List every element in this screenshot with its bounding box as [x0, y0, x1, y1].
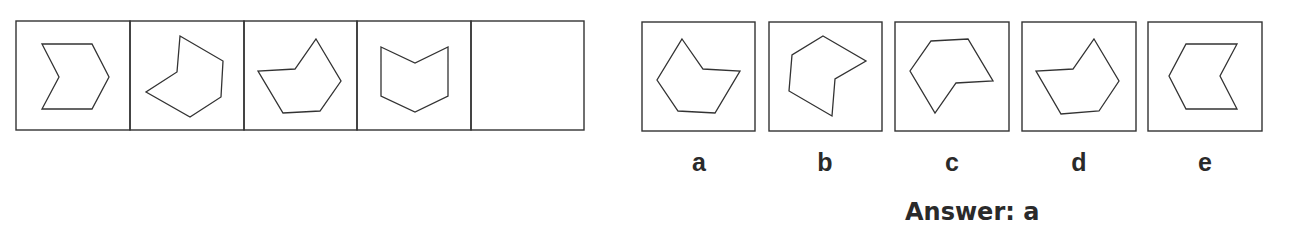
sequence-cell-1-frame: [16, 21, 130, 130]
puzzle-figure: [0, 0, 1296, 239]
option-label-e: e: [1185, 150, 1225, 175]
option-label-a: a: [679, 150, 719, 175]
sequence-cell-2-frame: [130, 21, 244, 130]
option-e-frame: [1148, 22, 1262, 131]
option-b: [769, 22, 882, 131]
option-b-frame: [769, 22, 882, 131]
option-d: [1022, 22, 1136, 131]
option-d-hexagon-shape: [1036, 39, 1119, 114]
option-c-hexagon-shape: [910, 39, 993, 113]
sequence-cell-4-frame: [357, 21, 471, 130]
sequence-cell-3-hexagon-shape: [258, 39, 341, 113]
answer-text: Answer: a: [905, 200, 1039, 224]
sequence-cell-5-frame: [471, 21, 584, 130]
option-b-hexagon-shape: [789, 36, 866, 116]
sequence-cell-4-hexagon-shape: [381, 47, 448, 112]
option-c: [895, 22, 1009, 131]
option-e-hexagon-shape: [1169, 44, 1237, 109]
sequence-cell-1: [16, 21, 130, 130]
sequence-cell-3: [244, 21, 357, 130]
sequence-cell-5: [471, 21, 584, 130]
sequence-cell-1-hexagon-shape: [42, 44, 109, 109]
option-label-b: b: [805, 150, 845, 175]
option-label-c: c: [932, 150, 972, 175]
sequence-cell-2: [130, 21, 244, 130]
sequence-cell-2-hexagon-shape: [146, 36, 223, 117]
option-c-frame: [895, 22, 1009, 131]
option-a: [642, 22, 755, 131]
option-e: [1148, 22, 1262, 131]
sequence-cell-4: [357, 21, 471, 130]
puzzle-stage: a b c d e Answer: a: [0, 0, 1296, 239]
option-a-hexagon-shape: [657, 39, 740, 113]
option-label-d: d: [1059, 150, 1099, 175]
